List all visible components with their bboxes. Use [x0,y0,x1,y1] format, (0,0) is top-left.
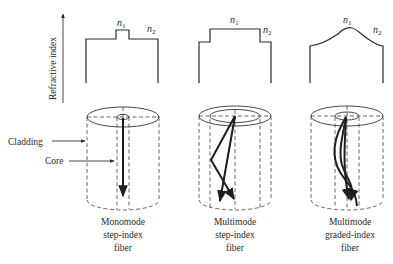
graded-profile-curve [310,28,383,83]
svg-text:fiber: fiber [226,243,245,253]
svg-text:Multimode: Multimode [214,217,256,227]
step-profile-curve [199,29,271,83]
cladding-label: Cladding [8,137,43,147]
n2-label: n2 [373,24,382,37]
fiber-types-diagram: Refractive index n1 n2 n1 n2 n1 n2 Cladd… [0,0,393,264]
svg-text:fiber: fiber [341,243,360,253]
n1-label: n1 [230,14,239,27]
fiber-multimode-graded-index [311,106,383,210]
n1-label: n1 [117,17,126,30]
caption-multimode-step-index: Multimode step-index fiber [214,217,256,253]
svg-text:step-index: step-index [103,230,143,240]
profile-multimode-step-index: n1 n2 [199,14,272,83]
svg-text:graded-index: graded-index [325,230,375,240]
fiber-multimode-step-index [199,106,271,210]
n2-label: n2 [263,24,272,37]
caption-monomode-step-index: Monomode step-index fiber [101,217,145,253]
step-profile-curve [86,30,158,83]
n2-label: n2 [147,23,156,36]
fiber-monomode-step-index [87,107,159,210]
caption-multimode-graded-index: Multimode graded-index fiber [325,217,375,253]
n1-label: n1 [343,14,352,27]
svg-text:step-index: step-index [215,230,255,240]
axis-label: Refractive index [48,37,58,100]
core-label: Core [45,156,63,166]
profile-monomode-step-index: n1 n2 [86,17,158,83]
svg-text:Monomode: Monomode [101,217,145,227]
svg-text:Multimode: Multimode [329,217,371,227]
refractive-index-axis: Refractive index [48,14,63,103]
profile-multimode-graded-index: n1 n2 [310,14,383,83]
svg-text:fiber: fiber [114,243,133,253]
component-labels: Cladding Core [8,137,114,166]
